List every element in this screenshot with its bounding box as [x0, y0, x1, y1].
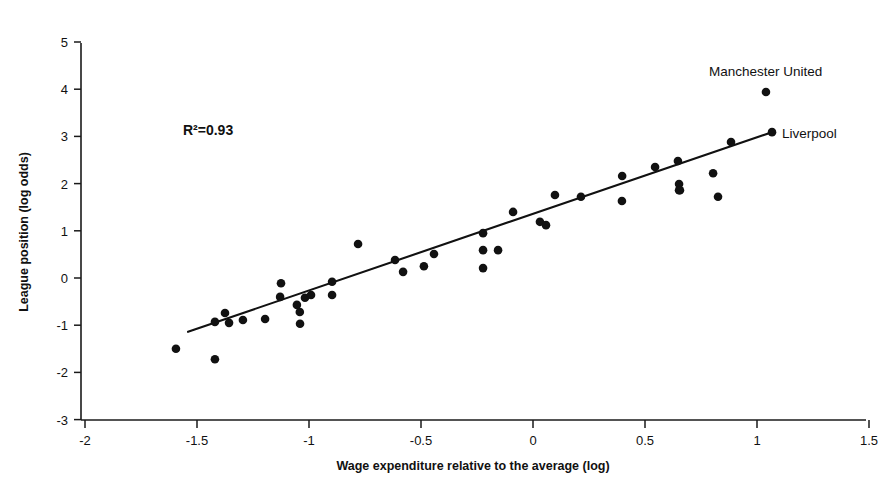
- scatter-point: [172, 345, 181, 354]
- scatter-point: [296, 308, 305, 317]
- scatter-point: [225, 319, 234, 328]
- y-tick-label: -1: [56, 318, 68, 333]
- liverpool-label: Liverpool: [782, 126, 837, 141]
- y-tick-label: 3: [61, 129, 68, 144]
- scatter-point: [211, 355, 220, 364]
- scatter-point: [494, 246, 503, 255]
- x-tick-label: 0.5: [636, 433, 654, 448]
- scatter-point: [354, 240, 363, 249]
- y-tick-label: 4: [61, 82, 68, 97]
- x-tick-label: -1.5: [186, 433, 208, 448]
- scatter-points: [172, 88, 777, 364]
- scatter-point: [430, 250, 439, 259]
- x-tick-label: 1.5: [860, 433, 878, 448]
- scatter-point: [651, 163, 660, 172]
- scatter-point: [276, 293, 285, 302]
- y-tick-label: -2: [56, 365, 68, 380]
- scatter-point: [542, 221, 551, 230]
- scatter-point: [674, 157, 683, 166]
- scatter-point: [391, 256, 400, 265]
- y-tick-label: 1: [61, 224, 68, 239]
- y-tick-label: 2: [61, 177, 68, 192]
- x-tick-label: -2: [79, 433, 91, 448]
- scatter-point: [328, 291, 337, 300]
- y-tick-label: -3: [56, 413, 68, 428]
- scatter-point: [577, 193, 586, 202]
- scatter-point: [618, 197, 627, 206]
- scatter-point: [328, 277, 337, 286]
- scatter-point: [762, 88, 771, 97]
- y-tick-label: 5: [61, 35, 68, 50]
- scatter-point: [676, 186, 685, 195]
- scatter-point: [261, 315, 270, 324]
- scatter-point: [296, 319, 305, 328]
- scatter-point: [479, 264, 488, 273]
- scatter-point: [551, 191, 560, 200]
- x-tick-label: -1: [303, 433, 315, 448]
- x-axis-ticks: -2-1.5-1-0.500.511.5: [79, 420, 878, 448]
- scatter-point: [509, 208, 518, 217]
- r-squared-annotation: R²=0.93: [183, 122, 233, 138]
- scatter-point: [399, 268, 408, 277]
- x-tick-label: 0: [529, 433, 536, 448]
- scatter-point: [277, 279, 286, 288]
- scatter-point: [211, 318, 220, 327]
- scatter-point: [221, 309, 230, 318]
- scatter-point: [727, 138, 736, 147]
- scatter-point: [709, 169, 718, 178]
- scatter-point: [307, 291, 316, 300]
- manchester-united-label: Manchester United: [709, 64, 822, 79]
- scatter-point: [479, 246, 488, 255]
- y-axis-title: League position (log odds): [17, 152, 31, 312]
- scatter-chart-figure: -3-2-1012345 -2-1.5-1-0.500.511.5 League…: [0, 0, 896, 491]
- x-tick-label: -0.5: [410, 433, 432, 448]
- scatter-point: [420, 262, 429, 271]
- y-axis-ticks: -3-2-1012345: [56, 35, 81, 428]
- scatter-point: [714, 193, 723, 202]
- scatter-point: [618, 172, 627, 181]
- scatter-point: [479, 229, 488, 238]
- scatter-point: [768, 128, 777, 137]
- x-axis-title: Wage expenditure relative to the average…: [336, 459, 609, 473]
- x-tick-label: 1: [753, 433, 760, 448]
- scatter-point: [239, 316, 248, 325]
- y-tick-label: 0: [61, 271, 68, 286]
